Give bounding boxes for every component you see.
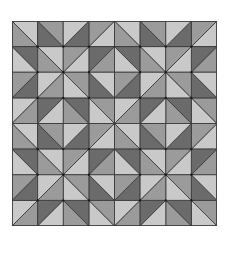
vertex-dot xyxy=(139,174,141,176)
quilt-svg xyxy=(12,21,217,226)
vertex-dot xyxy=(139,97,141,99)
vertex-dot xyxy=(36,174,38,176)
quilt-pattern-figure xyxy=(12,21,217,226)
vertex-dot xyxy=(62,174,64,176)
vertex-dot xyxy=(36,71,38,73)
vertex-dot xyxy=(190,148,192,150)
vertex-dot xyxy=(88,71,90,73)
vertex-dot xyxy=(190,71,192,73)
vertex-dot xyxy=(62,148,64,150)
vertex-dot xyxy=(165,45,167,47)
vertex-dot xyxy=(165,199,167,201)
vertex-dot xyxy=(139,199,141,201)
vertex-dot xyxy=(190,97,192,99)
vertex-dot xyxy=(165,71,167,73)
vertex-dot xyxy=(139,71,141,73)
vertex-dot xyxy=(62,97,64,99)
quilt-block xyxy=(12,124,115,227)
vertex-dot xyxy=(36,45,38,47)
quilt-block xyxy=(115,21,218,124)
vertex-dot xyxy=(36,199,38,201)
vertex-dot xyxy=(62,199,64,201)
vertex-dot xyxy=(88,148,90,150)
vertex-dot xyxy=(190,199,192,201)
quilt-block xyxy=(115,124,218,227)
vertex-dot xyxy=(139,45,141,47)
vertex-dot xyxy=(36,97,38,99)
vertex-dot xyxy=(165,97,167,99)
vertex-dot xyxy=(62,71,64,73)
vertex-dot xyxy=(88,97,90,99)
quilt-block xyxy=(12,21,115,124)
vertex-dot xyxy=(165,174,167,176)
vertex-dot xyxy=(165,148,167,150)
vertex-dot xyxy=(190,174,192,176)
vertex-dot xyxy=(190,45,192,47)
vertex-dot xyxy=(88,45,90,47)
vertex-dot xyxy=(88,174,90,176)
vertex-dot xyxy=(88,199,90,201)
vertex-dot xyxy=(62,45,64,47)
vertex-dot xyxy=(36,148,38,150)
vertex-dot xyxy=(139,148,141,150)
